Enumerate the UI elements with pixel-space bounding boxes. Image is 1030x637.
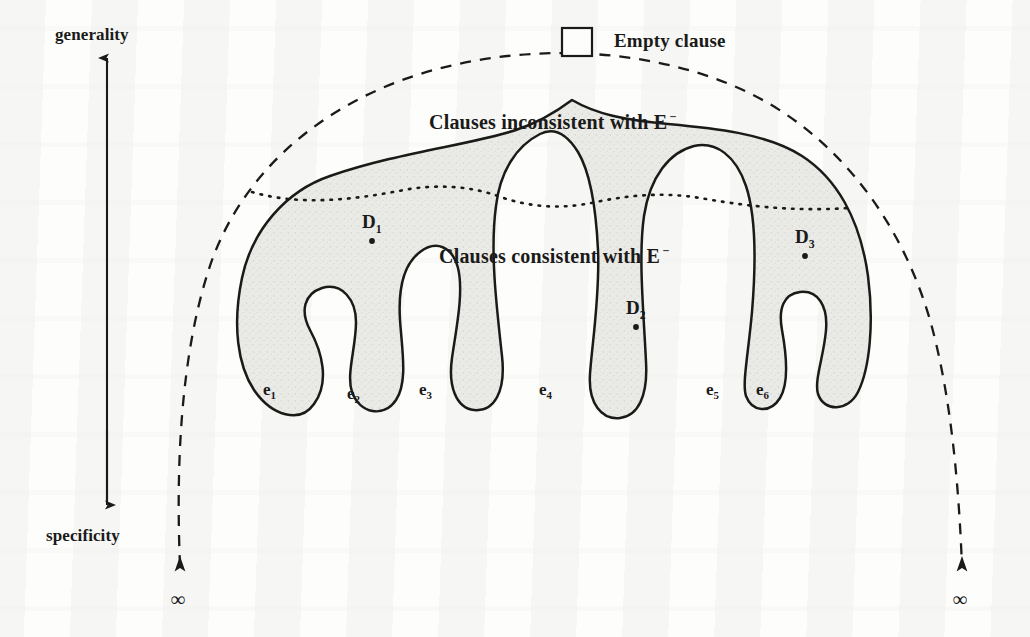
hypothesis-point-d3 [802, 253, 808, 259]
example-letter-e2: e [347, 384, 355, 403]
example-label-e1: e1 [263, 381, 276, 401]
example-index-e1: 1 [271, 389, 276, 401]
hypothesis-index-d3: 3 [809, 238, 815, 251]
example-label-e2: e2 [347, 385, 360, 405]
example-index-e3: 3 [427, 389, 432, 401]
example-letter-e3: e [419, 380, 427, 399]
example-letter-e6: e [756, 380, 764, 399]
region-label-consistent-text: Clauses consistent with E [439, 245, 660, 267]
region-label-inconsistent-sup: − [669, 110, 676, 124]
example-letter-e5: e [706, 380, 714, 399]
example-label-e3: e3 [419, 381, 432, 401]
example-index-e2: 2 [355, 393, 360, 405]
hypothesis-point-d1 [369, 238, 375, 244]
specificity-axis-label: specificity [46, 527, 120, 544]
example-label-e5: e5 [706, 381, 719, 401]
example-index-e5: 5 [714, 389, 719, 401]
dashed-envelope-arrowheads [175, 556, 968, 572]
infinity-symbol-left: ∞ [171, 589, 185, 609]
hypothesis-index-d1: 1 [376, 223, 382, 236]
hypothesis-label-d3: D3 [795, 227, 815, 251]
figure-canvas: generality specificity Empty clause Clau… [0, 0, 1030, 637]
region-label-consistent-sup: − [662, 244, 669, 258]
example-letter-e1: e [263, 380, 271, 399]
example-label-e6: e6 [756, 381, 769, 401]
region-label-inconsistent: Clauses inconsistent with E− [429, 111, 676, 132]
example-label-e4: e4 [539, 381, 552, 401]
hypothesis-letter-d3: D [795, 226, 809, 247]
hypothesis-point-d2 [633, 324, 639, 330]
left-infinity-arrowhead [175, 556, 186, 572]
right-infinity-arrowhead [957, 556, 968, 572]
hypothesis-letter-d2: D [626, 297, 640, 318]
region-label-consistent: Clauses consistent with E− [439, 245, 669, 266]
empty-clause-box-icon [562, 28, 592, 56]
generality-axis-label: generality [55, 26, 129, 43]
diagram-vector-layer [0, 0, 1030, 637]
example-index-e4: 4 [547, 389, 552, 401]
example-letter-e4: e [539, 380, 547, 399]
hypothesis-index-d2: 2 [640, 309, 646, 322]
hypothesis-label-d1: D1 [362, 212, 382, 236]
hypothesis-label-d2: D2 [626, 298, 646, 322]
infinity-symbol-right: ∞ [953, 589, 967, 609]
empty-clause-label: Empty clause [614, 31, 726, 50]
hypothesis-letter-d1: D [362, 211, 376, 232]
example-index-e6: 6 [764, 389, 769, 401]
region-label-inconsistent-text: Clauses inconsistent with E [429, 111, 667, 133]
